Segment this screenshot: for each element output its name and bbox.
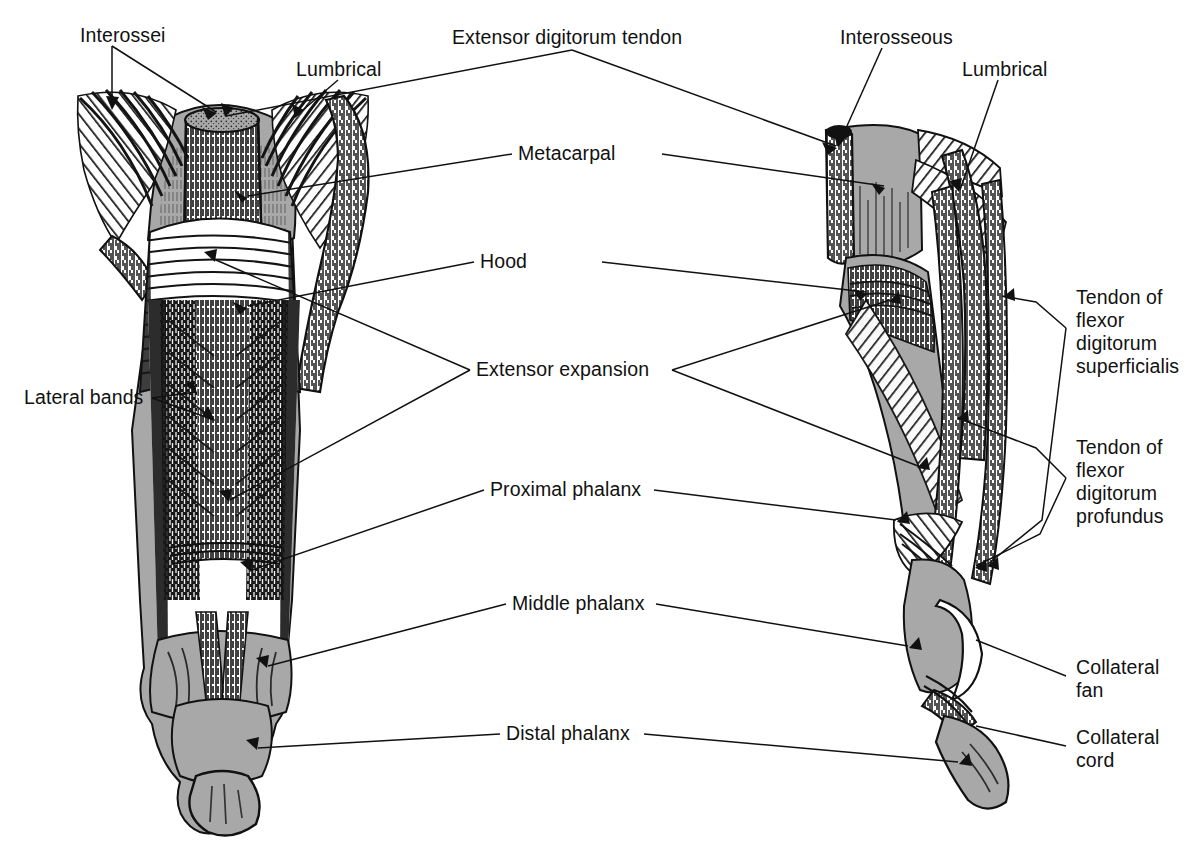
label-proximal-phalanx: Proximal phalanx [490, 478, 641, 501]
label-lateral-bands: Lateral bands [24, 386, 143, 409]
distal-phalanx-lateral [936, 716, 1008, 809]
label-interosseous: Interosseous [840, 26, 953, 49]
label-collateral-fan: Collateral fan [1076, 656, 1159, 702]
anatomical-figure: Interossei Lumbrical Extensor digitorum … [0, 0, 1204, 853]
label-distal-phalanx: Distal phalanx [506, 722, 630, 745]
label-interossei: Interossei [80, 24, 166, 47]
dorsal-view-illustration [78, 90, 369, 836]
label-extensor-digitorum-tendon: Extensor digitorum tendon [452, 26, 682, 49]
label-collateral-cord: Collateral cord [1076, 726, 1159, 772]
label-tendon-flexor-digitorum-superficialis: Tendon of flexor digitorum superficialis [1076, 286, 1179, 378]
label-lumbrical-right: Lumbrical [962, 58, 1047, 81]
label-tendon-flexor-digitorum-profundus: Tendon of flexor digitorum profundus [1076, 436, 1164, 528]
label-extensor-expansion: Extensor expansion [476, 358, 649, 381]
label-metacarpal: Metacarpal [518, 142, 615, 165]
label-lumbrical-left: Lumbrical [296, 58, 381, 81]
extensor-expansion-left [130, 296, 310, 676]
label-middle-phalanx: Middle phalanx [512, 592, 645, 615]
lateral-view-illustration [826, 125, 1008, 809]
label-hood: Hood [480, 250, 527, 273]
